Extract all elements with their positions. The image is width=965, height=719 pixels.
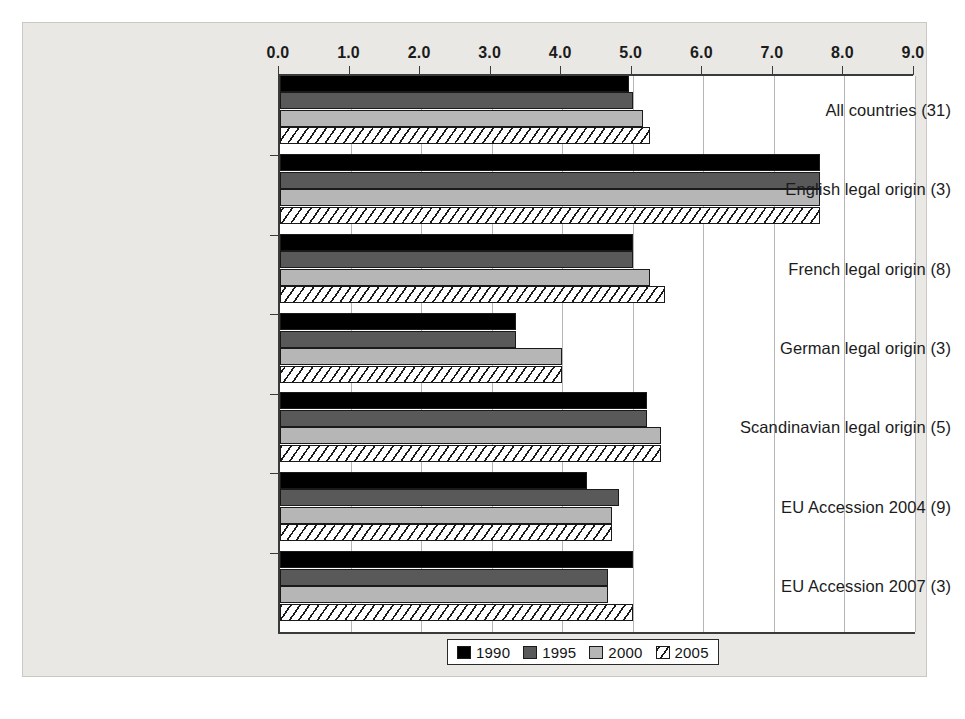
legend-label: 1995: [542, 644, 576, 661]
bar-2000-2: [280, 269, 650, 286]
bar-1990-4: [280, 392, 647, 409]
y-tick-mark: [270, 314, 278, 315]
chart-legend: 1990199520002005: [447, 639, 719, 665]
category-label-0: All countries (31): [695, 100, 965, 119]
swatch-2005-icon: [656, 646, 670, 659]
bar-2005-0: [280, 127, 650, 144]
bar-1990-1: [280, 154, 820, 171]
swatch-1995-icon: [523, 646, 537, 659]
legend-item-2000: 2000: [589, 644, 642, 661]
swatch-1990-icon: [457, 646, 471, 659]
chart-figure: 0.01.02.03.04.05.06.07.08.09.0 199019952…: [0, 0, 965, 719]
bar-2000-0: [280, 110, 643, 127]
bar-1995-4: [280, 410, 647, 427]
bar-1990-6: [280, 551, 633, 568]
legend-label: 1990: [476, 644, 510, 661]
bar-1995-3: [280, 331, 516, 348]
category-label-3: German legal origin (3): [695, 339, 965, 358]
swatch-2000-icon: [589, 646, 603, 659]
y-tick-mark: [270, 235, 278, 236]
legend-item-1990: 1990: [457, 644, 510, 661]
bar-2000-3: [280, 348, 562, 365]
legend-item-2005: 2005: [656, 644, 709, 661]
bar-1995-0: [280, 92, 633, 109]
y-tick-mark: [270, 155, 278, 156]
category-label-6: EU Accession 2007 (3): [695, 577, 965, 596]
bar-2005-1: [280, 207, 820, 224]
bar-1995-6: [280, 569, 608, 586]
legend-item-1995: 1995: [523, 644, 576, 661]
legend-label: 2005: [675, 644, 709, 661]
bar-1990-5: [280, 472, 587, 489]
bar-2005-5: [280, 524, 612, 541]
bar-1990-0: [280, 75, 629, 92]
bar-2000-4: [280, 427, 661, 444]
bar-1995-5: [280, 489, 619, 506]
bar-2005-3: [280, 366, 562, 383]
bar-1995-2: [280, 251, 633, 268]
bar-1990-2: [280, 234, 633, 251]
bar-2005-6: [280, 604, 633, 621]
y-tick-mark: [270, 553, 278, 554]
bar-1990-3: [280, 313, 516, 330]
category-label-5: EU Accession 2004 (9): [695, 497, 965, 516]
y-tick-mark: [270, 473, 278, 474]
category-label-2: French legal origin (8): [695, 259, 965, 278]
bar-2005-4: [280, 445, 661, 462]
category-label-1: English legal origin (3): [695, 180, 965, 199]
bar-2005-2: [280, 286, 665, 303]
bar-2000-5: [280, 507, 612, 524]
bar-2000-6: [280, 586, 608, 603]
category-label-4: Scandinavian legal origin (5): [695, 418, 965, 437]
legend-label: 2000: [608, 644, 642, 661]
y-tick-mark: [270, 394, 278, 395]
